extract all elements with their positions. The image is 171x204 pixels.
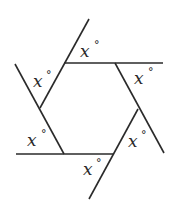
degree-symbol: ° <box>46 69 52 82</box>
angle-label-upper-right: x ° <box>134 66 154 88</box>
angle-label-lower-right: x ° <box>128 129 147 151</box>
angle-label-top: x ° <box>80 39 100 61</box>
angle-var: x <box>80 41 90 61</box>
angle-label-lower-left: x ° <box>27 128 47 150</box>
hexagon-angle-diagram: x ° x ° x ° x ° x ° x ° <box>0 0 171 204</box>
angle-var: x <box>128 131 138 151</box>
degree-symbol: ° <box>94 39 100 52</box>
angle-var: x <box>33 71 43 91</box>
angle-label-upper-left: x ° <box>33 69 52 91</box>
angle-label-bottom: x ° <box>83 157 102 179</box>
angle-var: x <box>83 159 93 179</box>
degree-symbol: ° <box>41 128 47 141</box>
degree-symbol: ° <box>96 157 102 170</box>
angle-var: x <box>27 130 37 150</box>
degree-symbol: ° <box>141 129 147 142</box>
angle-var: x <box>134 68 144 88</box>
degree-symbol: ° <box>148 66 154 79</box>
